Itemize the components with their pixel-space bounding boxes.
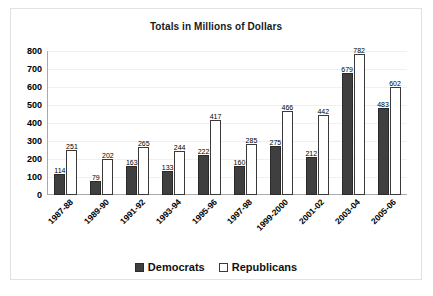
bar-value-label: 160 xyxy=(234,159,246,166)
bar-value-label: 251 xyxy=(66,143,78,150)
bar-dem: 275 xyxy=(270,146,281,196)
x-tick-label: 1999-2000 xyxy=(249,197,290,238)
bar-value-label: 285 xyxy=(246,137,258,144)
bar-dem: 679 xyxy=(342,73,353,195)
bar-group: 163265 xyxy=(120,51,156,195)
bar-dem: 222 xyxy=(198,155,209,195)
bar-dem: 160 xyxy=(234,166,245,195)
x-tick-label: 1995-96 xyxy=(178,197,219,238)
bar-dem: 483 xyxy=(378,108,389,195)
bar-group: 679782 xyxy=(335,51,371,195)
bar-group: 212442 xyxy=(299,51,335,195)
y-tick-label: 0 xyxy=(37,190,42,200)
bar-value-label: 222 xyxy=(198,148,210,155)
outlined-white-square-icon xyxy=(219,263,228,272)
bar-value-label: 417 xyxy=(210,113,222,120)
legend-label: Republicans xyxy=(232,261,297,273)
legend-item-republicans[interactable]: Republicans xyxy=(219,261,297,273)
y-tick-label: 400 xyxy=(27,118,42,128)
chart-legend: DemocratsRepublicans xyxy=(11,261,421,273)
y-tick-label: 800 xyxy=(27,46,42,56)
bar-group: 160285 xyxy=(228,51,264,195)
bar-value-label: 202 xyxy=(102,152,114,159)
bar-group: 222417 xyxy=(192,51,228,195)
bar-group: 483602 xyxy=(371,51,407,195)
y-tick-label: 100 xyxy=(27,172,42,182)
y-tick-label: 600 xyxy=(27,82,42,92)
bar-rep: 417 xyxy=(210,120,221,195)
bar-group: 275466 xyxy=(263,51,299,195)
bar-value-label: 163 xyxy=(126,159,138,166)
bar-group: 79202 xyxy=(84,51,120,195)
legend-label: Democrats xyxy=(148,261,205,273)
bar-dem: 163 xyxy=(126,166,137,195)
bar-group: 114251 xyxy=(48,51,84,195)
x-tick-label: 1991-92 xyxy=(106,197,147,238)
bar-value-label: 114 xyxy=(54,167,65,174)
legend-item-democrats[interactable]: Democrats xyxy=(135,261,205,273)
bar-value-label: 466 xyxy=(281,104,293,111)
chart-title: Totals in Millions of Dollars xyxy=(11,21,421,32)
bar-value-label: 483 xyxy=(377,101,389,108)
bars-layer: 1142517920216326513324422241716028527546… xyxy=(48,51,407,195)
filled-dark-square-icon xyxy=(135,263,144,272)
bar-value-label: 265 xyxy=(138,140,150,147)
x-tick-label: 2001-02 xyxy=(285,197,326,238)
y-tick-label: 700 xyxy=(27,64,42,74)
bar-rep: 251 xyxy=(66,150,77,195)
bar-rep: 285 xyxy=(246,144,257,195)
x-tick-label: 2005-06 xyxy=(357,197,398,238)
bar-value-label: 679 xyxy=(341,66,353,73)
bar-dem: 133 xyxy=(162,171,173,195)
bar-rep: 602 xyxy=(390,87,401,195)
bar-value-label: 442 xyxy=(317,108,329,115)
x-tick-label: 1989-90 xyxy=(70,197,111,238)
bar-value-label: 212 xyxy=(305,150,317,157)
y-axis-tick-labels: 8007006005004003002001000 xyxy=(11,51,45,195)
bar-rep: 466 xyxy=(282,111,293,195)
x-tick-label: 2003-04 xyxy=(321,197,362,238)
y-tick-label: 500 xyxy=(27,100,42,110)
x-tick-label: 1993-94 xyxy=(142,197,183,238)
bar-rep: 244 xyxy=(174,151,185,195)
bar-rep: 265 xyxy=(138,147,149,195)
bar-value-label: 782 xyxy=(353,47,365,54)
bar-dem: 212 xyxy=(306,157,317,195)
bar-value-label: 602 xyxy=(389,80,401,87)
x-axis-tick-labels: 1987-881989-901991-921993-941995-961997-… xyxy=(48,197,407,255)
bar-value-label: 275 xyxy=(269,139,281,146)
bar-group: 133244 xyxy=(156,51,192,195)
bar-dem: 79 xyxy=(90,181,101,195)
x-tick-label: 1997-98 xyxy=(213,197,254,238)
chart-container: Totals in Millions of Dollars 8007006005… xyxy=(10,8,422,280)
bar-dem: 114 xyxy=(54,174,65,195)
bar-value-label: 244 xyxy=(174,144,186,151)
y-tick-label: 300 xyxy=(27,136,42,146)
bar-rep: 442 xyxy=(318,115,329,195)
bar-value-label: 79 xyxy=(92,174,100,181)
bar-rep: 202 xyxy=(102,159,113,195)
bar-value-label: 133 xyxy=(162,164,174,171)
x-tick-label: 1987-88 xyxy=(34,197,75,238)
bar-rep: 782 xyxy=(354,54,365,195)
y-tick-label: 200 xyxy=(27,154,42,164)
